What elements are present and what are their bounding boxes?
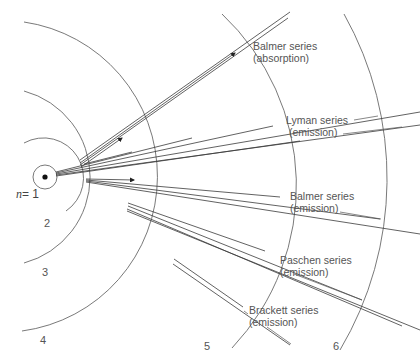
orbit-n5 — [222, 14, 296, 348]
balmer-absorption-lines — [80, 12, 290, 167]
orbit-n6 — [340, 14, 387, 350]
label-balmer-absorption: Balmer series (absorption) — [253, 40, 317, 64]
orbit-label-n5: 5 — [204, 340, 210, 352]
label-brackett-emission: Brackett series (emission) — [249, 304, 318, 328]
orbit-label-n4: 4 — [40, 334, 46, 346]
label-lyman-emission: Lyman series (emission) — [286, 114, 348, 138]
orbit-label-n6: 6 — [333, 340, 339, 352]
diagram-canvas — [0, 0, 420, 363]
bohr-orbit-diagram: n= 1 2 3 4 5 6 Balmer series (absorption… — [0, 0, 420, 363]
orbit-label-n3: 3 — [42, 266, 48, 278]
lyman-emission-lines — [56, 112, 420, 176]
nucleus-dot — [42, 174, 47, 179]
label-paschen-emission: Paschen series (emission) — [280, 254, 352, 278]
label-balmer-emission: Balmer series (emission) — [290, 190, 354, 214]
orbit-label-n2: 2 — [44, 217, 50, 229]
brackett-emission-lines — [173, 259, 290, 345]
orbit-label-n1: n= 1 — [16, 187, 39, 202]
balmer-emission-lines — [86, 179, 420, 234]
